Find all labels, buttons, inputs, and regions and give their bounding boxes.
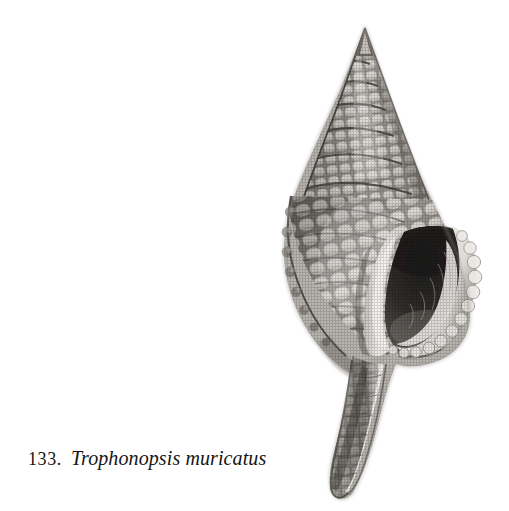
caption-species-name: Trophonopsis muricatus: [71, 447, 266, 469]
figure-caption: 133.Trophonopsis muricatus: [28, 447, 266, 470]
plate-page: 133.Trophonopsis muricatus: [0, 0, 509, 511]
seashell-illustration: [0, 0, 509, 511]
caption-number: 133.: [28, 449, 62, 469]
